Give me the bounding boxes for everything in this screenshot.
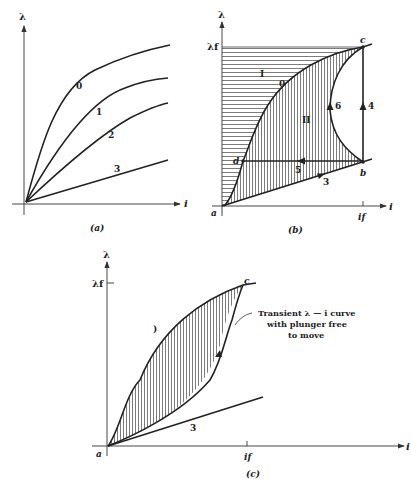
y-axis-label: λ (103, 249, 110, 260)
panel-b: λ i λf if d b c a I II 0 3 4 5 6 (b) (207, 9, 393, 235)
point-label-b: b (360, 168, 366, 178)
lambda-f-label: λf (92, 278, 104, 289)
curve-label-0: 0 (76, 81, 82, 91)
if-label: if (244, 452, 253, 462)
annotation-line-3: to move (288, 330, 324, 340)
panel-c: λ i λf if Transient λ — i curve with plu… (92, 249, 410, 479)
curve-label-2: 2 (108, 130, 114, 140)
panel-a: λ i 0 1 2 3 (a) (12, 11, 188, 233)
annotation-leader (235, 313, 252, 325)
path-label-3: 3 (323, 177, 329, 187)
point-d (241, 159, 245, 163)
if-label: if (358, 212, 367, 222)
point-label-c: c (360, 35, 366, 45)
point-label-d: d (233, 156, 240, 166)
caption-b: (b) (288, 225, 303, 235)
path-label-4: 4 (368, 101, 374, 111)
annotation-line-1: Transient λ — i curve (258, 308, 355, 318)
figure-canvas: λ i 0 1 2 3 (a) λ i λf if (0, 0, 411, 485)
caption-a: (a) (90, 223, 104, 233)
x-axis-label: i (389, 201, 393, 212)
y-axis-label: λ (19, 11, 26, 22)
lambda-f-label: λf (207, 41, 219, 52)
caption-c: (c) (246, 469, 260, 479)
annotation-line-2: with plunger free (266, 319, 347, 329)
region-label-II: II (302, 115, 310, 125)
x-axis-label: i (184, 198, 188, 209)
x-axis-label: i (406, 441, 410, 452)
path-label-6: 6 (335, 101, 341, 111)
path-label-5: 5 (295, 165, 301, 175)
transient-region-hatch (108, 285, 243, 446)
curve-label-3: 3 (114, 164, 120, 174)
point-c (361, 45, 365, 49)
region-label-I: I (260, 69, 264, 79)
arrow-4-icon (360, 102, 367, 110)
point-label-c: c (244, 276, 250, 286)
line-label-3: 3 (190, 423, 196, 433)
curve-2 (26, 103, 168, 202)
curve-label-0: ) (153, 324, 157, 334)
curve-0 (26, 45, 170, 202)
y-axis-label: λ (218, 9, 225, 20)
point-b (361, 160, 365, 164)
curve-label-1: 1 (96, 107, 102, 117)
curve-label-0: 0 (279, 79, 285, 89)
point-label-a: a (96, 449, 102, 459)
point-label-a: a (211, 208, 217, 218)
